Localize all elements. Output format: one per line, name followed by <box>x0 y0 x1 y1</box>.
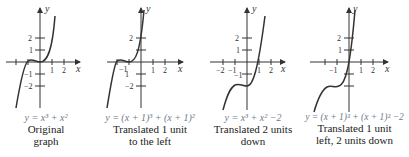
description: Translated 2 units down <box>208 123 298 147</box>
description: Translated 1 unit left, 2 units down <box>300 122 409 146</box>
svg-text:x: x <box>384 63 390 74</box>
equation: y = x³ + x² −2 <box>208 112 298 123</box>
svg-text:1: 1 <box>338 46 342 55</box>
description: Original graph <box>0 123 92 147</box>
svg-text:2: 2 <box>371 66 375 75</box>
caption-down-2: y = x³ + x² −2 Translated 2 units down <box>208 112 298 147</box>
graph-original: 12 21 −1−2 x y <box>6 3 81 108</box>
svg-text:1: 1 <box>359 66 363 75</box>
svg-text:1: 1 <box>236 46 240 55</box>
caption-left-1: y = (x + 1)³ + (x + 1)² Translated 1 uni… <box>98 112 202 147</box>
caption-original: y = x³ + x² Original graph <box>0 112 92 147</box>
graph-down-2: −2−1 −1 12 21 x y <box>210 3 286 110</box>
svg-text:2: 2 <box>337 34 341 43</box>
svg-text:−1: −1 <box>234 71 243 80</box>
svg-text:y: y <box>251 3 257 14</box>
svg-text:x: x <box>177 63 183 74</box>
graph-left-1-down-2: −1 12 21 x y <box>310 3 390 112</box>
svg-text:1: 1 <box>50 66 54 75</box>
svg-text:−2: −2 <box>125 82 134 91</box>
svg-text:2: 2 <box>129 34 133 43</box>
svg-text:x: x <box>280 63 286 74</box>
svg-text:1: 1 <box>257 66 261 75</box>
equation: y = (x + 1)³ + (x + 1)² −2 <box>300 112 409 122</box>
svg-text:2: 2 <box>269 66 273 75</box>
x-axis-label: x <box>75 63 81 74</box>
graph-left-1: 12 2 −11 −2 x y <box>107 3 183 108</box>
svg-text:2: 2 <box>28 34 32 43</box>
svg-text:1: 1 <box>151 66 155 75</box>
svg-text:1: 1 <box>125 70 129 79</box>
equation: y = x³ + x² <box>0 112 92 123</box>
svg-text:−1: −1 <box>329 66 338 75</box>
svg-text:2: 2 <box>235 34 239 43</box>
svg-text:2: 2 <box>62 66 66 75</box>
svg-text:−2: −2 <box>216 66 225 75</box>
svg-text:2: 2 <box>163 66 167 75</box>
svg-text:−1: −1 <box>24 70 33 79</box>
caption-left-1-down-2: y = (x + 1)³ + (x + 1)² −2 Translated 1 … <box>300 112 409 146</box>
svg-text:−2: −2 <box>24 82 33 91</box>
svg-text:1: 1 <box>29 46 33 55</box>
description: Translated 1 unit to the left <box>98 123 202 147</box>
svg-text:y: y <box>145 3 151 14</box>
equation: y = (x + 1)³ + (x + 1)² <box>98 112 202 123</box>
y-axis-label: y <box>44 3 50 14</box>
